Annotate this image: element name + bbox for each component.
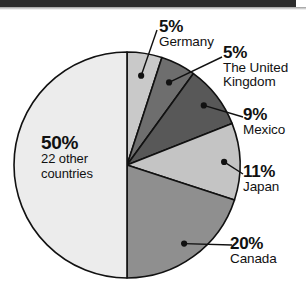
slice-label-united-kingdom: 5% The United Kingdom — [223, 44, 288, 89]
slice-percent-other-countries: 50% — [41, 133, 93, 152]
slice-name-other-countries-line1: 22 other — [41, 152, 93, 167]
slice-name-united-kingdom-line1: The United — [223, 61, 288, 75]
slice-name-other-countries-line2: countries — [41, 167, 93, 182]
slice-name-germany: Germany — [159, 35, 214, 49]
slice-name-canada: Canada — [230, 252, 277, 266]
slice-label-mexico: 9% Mexico — [243, 106, 285, 137]
slice-label-other-countries: 50% 22 other countries — [41, 133, 93, 181]
slice-label-germany: 5% Germany — [159, 18, 214, 49]
slice-name-japan: Japan — [243, 180, 279, 194]
slice-percent-united-kingdom: 5% — [223, 44, 288, 61]
leader-dot-canada — [181, 241, 187, 247]
pie-chart-figure: 5% Germany 5% The United Kingdom 9% Mexi… — [0, 0, 306, 292]
slice-label-japan: 11% Japan — [243, 163, 279, 194]
slice-percent-mexico: 9% — [243, 106, 285, 123]
slice-name-mexico: Mexico — [243, 123, 285, 137]
slice-percent-japan: 11% — [243, 163, 279, 180]
slice-percent-germany: 5% — [159, 18, 214, 35]
leader-dot-the-united-kingdom — [166, 79, 172, 85]
leader-dot-germany — [138, 73, 144, 79]
slice-name-united-kingdom-line2: Kingdom — [223, 75, 288, 89]
leader-dot-mexico — [201, 102, 207, 108]
slice-percent-canada: 20% — [230, 235, 277, 252]
slice-label-canada: 20% Canada — [230, 235, 277, 266]
leader-dot-japan — [221, 159, 227, 165]
